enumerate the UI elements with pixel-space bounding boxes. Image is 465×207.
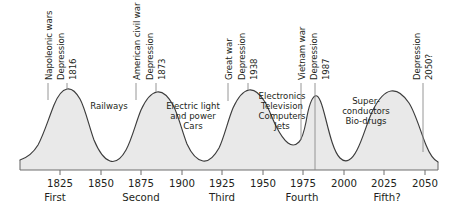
label-depression-1816-word: Depression (57, 33, 66, 80)
label-depression-1816-year: 1816 (69, 59, 78, 80)
tick-label-1875: 1875 (121, 178, 161, 189)
label-superconductors-1: Super- (336, 96, 396, 106)
tick-label-1950: 1950 (243, 178, 283, 189)
tick-label-2025: 2025 (364, 178, 404, 189)
wave-name-first: First (30, 192, 80, 203)
label-napoleonic-wars: Napoleonic wars (45, 11, 54, 80)
kondratiev-wave-chart: Napoleonic wars Depression 1816 American… (0, 0, 465, 207)
label-depression-1873-word: Depression (146, 33, 155, 80)
tick-label-1900: 1900 (162, 178, 202, 189)
label-television: Television (251, 101, 313, 111)
label-depression-1987-word: Depression (310, 33, 319, 80)
label-depression-2050-word: Depression (413, 33, 422, 80)
label-vietnam-war: Vietnam war (298, 27, 307, 80)
label-depression-2050-year: 2050? (425, 54, 434, 80)
label-computers: Computers (251, 111, 313, 121)
label-depression-1938-year: 1938 (250, 59, 259, 80)
tick-label-2000: 2000 (324, 178, 364, 189)
wave-name-fourth: Fourth (275, 192, 329, 203)
label-superconductors-2: conductors (336, 106, 396, 116)
label-depression-1938-word: Depression (238, 33, 247, 80)
label-american-civil-war: American civil war (133, 3, 142, 80)
label-great-war: Great war (225, 38, 234, 80)
wave-name-fifth: Fifth? (361, 192, 413, 203)
label-and-power: and power (160, 111, 226, 121)
label-electric-light: Electric light (160, 101, 226, 111)
label-cars: Cars (160, 121, 226, 131)
label-depression-1987-year: 1987 (322, 59, 331, 80)
tick-label-1850: 1850 (81, 178, 121, 189)
tick-label-1975: 1975 (283, 178, 323, 189)
tick-label-2050: 2050 (405, 178, 445, 189)
label-jets: Jets (251, 121, 313, 131)
label-depression-1873-year: 1873 (158, 59, 167, 80)
label-railways: Railways (78, 101, 140, 111)
tick-label-1925: 1925 (202, 178, 242, 189)
label-electronics: Electronics (251, 91, 313, 101)
wave-name-third: Third (198, 192, 246, 203)
label-bio-drugs: Bio-drugs (336, 116, 396, 126)
tick-label-1825: 1825 (40, 178, 80, 189)
wave-name-second: Second (114, 192, 168, 203)
x-axis-ticks (60, 170, 425, 175)
